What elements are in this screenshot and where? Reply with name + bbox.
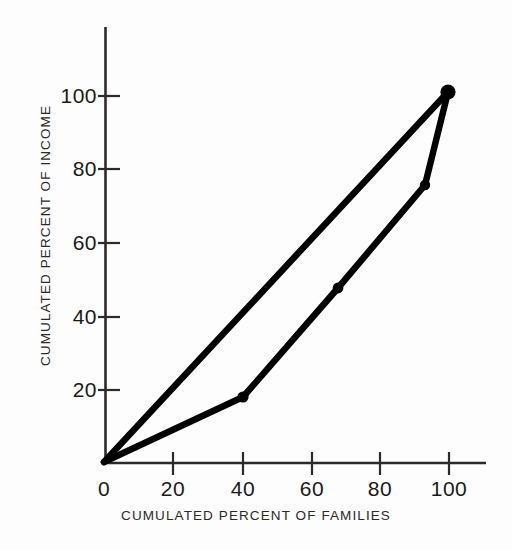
y-axis-title: CUMULATED PERCENT OF INCOME	[38, 86, 53, 386]
data-point-marker	[333, 283, 344, 294]
chart-canvas	[0, 0, 512, 550]
x-tick-label-80: 80	[350, 477, 410, 501]
data-point-markers	[237, 84, 455, 402]
x-tick-label-40: 40	[213, 477, 273, 501]
x-tick-label-100: 100	[419, 477, 479, 501]
data-point-marker	[420, 180, 430, 190]
x-tick-label-60: 60	[282, 477, 342, 501]
data-point-marker	[237, 391, 248, 402]
data-point-marker	[440, 84, 455, 99]
lorenz-curve-figure: 100 80 60 40 20 0 20 40 60 80 100 CUMULA…	[0, 0, 512, 550]
x-tick-label-20: 20	[143, 477, 203, 501]
y-axis-ticks	[98, 96, 120, 390]
x-tick-label-0: 0	[74, 477, 134, 501]
x-axis-title: CUMULATED PERCENT OF FAMILIES	[0, 508, 512, 523]
series-line-of-equality	[104, 92, 448, 462]
